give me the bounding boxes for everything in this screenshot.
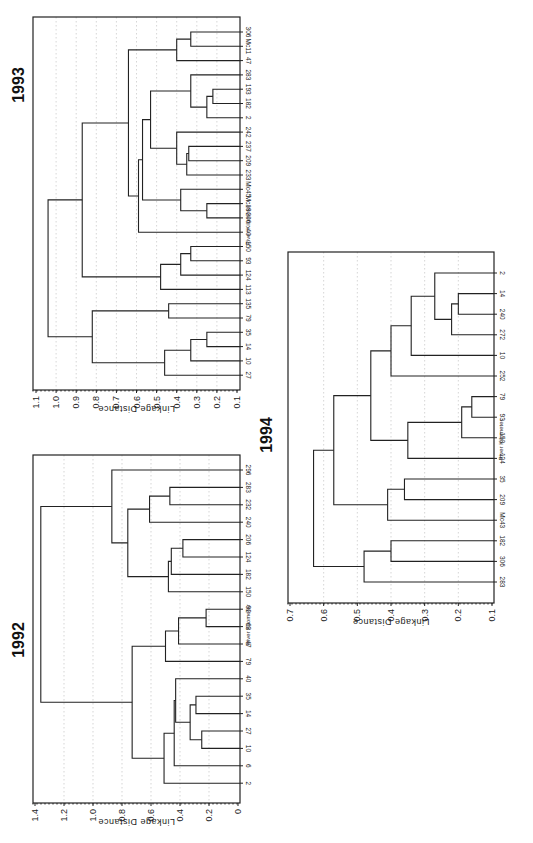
dendrogram-link — [128, 50, 176, 196]
leaf-label: 237 — [245, 141, 252, 152]
leaf-label: 306 — [499, 556, 506, 567]
y-axis-label: Linkage Distance — [98, 404, 175, 414]
leaf-label: 10 — [245, 745, 252, 753]
leaf-label: 27 — [245, 372, 252, 380]
dendrogram-link — [174, 701, 240, 766]
dendrogram-link — [314, 450, 365, 566]
tick-label: 0.2 — [204, 809, 214, 822]
dendrogram-link — [150, 496, 240, 522]
chart-title: 1993 — [10, 67, 27, 103]
leaf-label: 233 — [245, 170, 252, 181]
leaf-label: 47 — [245, 57, 252, 65]
dendrogram-link — [187, 154, 240, 175]
dendrogram-link — [191, 32, 240, 46]
dendrogram-link — [371, 351, 408, 440]
dendrogram-link — [48, 200, 92, 337]
dendrogram-link — [161, 264, 240, 289]
leaf-label: 79 — [245, 658, 252, 666]
dendrogram-link — [41, 506, 132, 702]
dendrogram-link — [334, 396, 388, 505]
y-axis-label: Linkage Distance — [352, 617, 429, 627]
dendrogram-link — [391, 541, 494, 562]
leaf-label: 283 — [245, 482, 252, 493]
y-axis-label: Linkage Distance — [98, 817, 175, 827]
dendrogram-link — [207, 332, 240, 346]
leaf-label: 6 — [245, 764, 252, 768]
dendrogram-link — [183, 540, 240, 557]
dendrogram-link — [166, 631, 241, 661]
tick-label: 0.2 — [212, 396, 222, 409]
leaf-label: 35 — [245, 329, 252, 337]
tick-label: 1.1 — [31, 396, 41, 409]
leaf-label: 14 — [245, 710, 252, 718]
leaf-label: 113 — [245, 284, 252, 295]
dendrogram-link — [207, 96, 240, 117]
leaf-label: 283 — [245, 69, 252, 80]
leaf-label: 124 — [245, 270, 252, 281]
dendrogram-link — [462, 407, 494, 438]
dendrogram-link — [458, 294, 494, 315]
tick-label: 0.2 — [453, 609, 463, 622]
dendrogram-figure: 1.11.00.90.80.70.60.50.40.30.20.1306Mc11… — [0, 0, 533, 843]
dendrogram-link — [168, 561, 240, 591]
leaf-label: 283 — [499, 577, 506, 588]
leaf-label: 35 — [499, 475, 506, 483]
tick-label: 1.0 — [88, 809, 98, 822]
dendrogram-link — [139, 160, 240, 232]
chart-title: 1992 — [10, 622, 27, 658]
leaf-label: Mc11 — [245, 39, 252, 55]
leaf-label: 242 — [245, 127, 252, 138]
leaf-label: 79 — [499, 393, 506, 401]
dendrogram-link — [388, 489, 494, 520]
leaf-label: 206 — [245, 534, 252, 545]
dendrogram-link — [181, 254, 240, 275]
leaf-label: 182 — [245, 569, 252, 580]
leaf-label: 10 — [245, 357, 252, 365]
tick-label: 0.1 — [232, 396, 242, 409]
dendrogram-link — [169, 304, 240, 318]
dendrogram-link — [191, 339, 240, 360]
leaf-label: 40 — [245, 675, 252, 683]
leaf-label: 2 — [499, 271, 506, 275]
tick-label: 1.2 — [59, 809, 69, 822]
dendrogram-link — [112, 470, 240, 543]
leaf-label: 272 — [499, 329, 506, 340]
dendrogram-link — [128, 509, 169, 576]
leaf-label: 14 — [499, 290, 506, 298]
dendrogram-link — [170, 487, 240, 504]
dendrogram-link — [391, 326, 494, 376]
dendrogram-link — [132, 646, 165, 758]
dendrogram-link — [202, 731, 240, 748]
leaf-label: 306 — [245, 27, 252, 38]
tick-label: 1.0 — [51, 396, 61, 409]
tick-label: 0.9 — [71, 396, 81, 409]
dendrogram-1993: 1.11.00.90.80.70.60.50.40.30.20.1306Mc11… — [10, 17, 252, 414]
dendrogram-link — [177, 39, 240, 60]
dendrogram-link — [404, 479, 494, 500]
x-axis-label: River Kilometer — [245, 204, 251, 245]
leaf-label: 193 — [245, 84, 252, 95]
leaf-label: 27 — [245, 727, 252, 735]
dendrogram-link — [165, 350, 240, 375]
leaf-label: 35 — [245, 693, 252, 701]
leaf-label: Mc43 — [499, 512, 506, 528]
x-axis-label: River Kilometer — [245, 604, 251, 645]
dendrogram-1992: 1.41.21.00.80.60.40.20296283232240206124… — [10, 455, 252, 827]
leaf-label: 209 — [245, 155, 252, 166]
leaf-label: 182 — [245, 98, 252, 109]
tick-label: 0.1 — [487, 609, 497, 622]
leaf-label: 150 — [245, 586, 252, 597]
dendrogram-link — [191, 75, 240, 107]
x-axis-label: River Kilometer — [498, 419, 504, 460]
dendrogram-link — [206, 609, 240, 626]
dendrogram-link — [176, 679, 240, 723]
leaf-label: 124 — [245, 552, 252, 563]
leaf-label: 2 — [245, 116, 252, 120]
dendrogram-link — [435, 273, 494, 319]
chart-title: 1994 — [258, 417, 275, 453]
leaf-label: 209 — [499, 494, 506, 505]
tick-label: 0.3 — [192, 396, 202, 409]
dendrogram-link — [364, 551, 494, 582]
dendrogram-link — [408, 422, 494, 458]
dendrogram-link — [177, 132, 240, 164]
